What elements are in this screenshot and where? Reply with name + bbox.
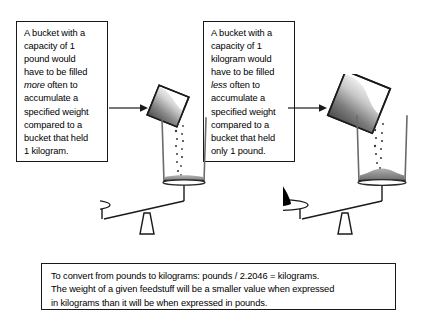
conversion-note-box: To convert from pounds to kilograms: pou… xyxy=(41,263,396,310)
illustration-kilogram-balance xyxy=(283,74,423,240)
callout-left-text-after: often to accumulate a specified weight c… xyxy=(24,80,89,155)
conversion-note-line1: To convert from pounds to kilograms: pou… xyxy=(51,271,319,281)
conversion-note-line2: The weight of a given feedstuff will be … xyxy=(51,284,334,294)
fulcrum-left xyxy=(140,213,154,234)
arrow-right-callout-to-scoop xyxy=(288,104,327,112)
balance-pan-left xyxy=(100,200,110,211)
bucket-left xyxy=(162,118,206,185)
illustration-pound-balance xyxy=(100,82,220,240)
callout-left-emphasis: more xyxy=(24,80,45,90)
callout-right-text-after: often to accumulate a specified weight c… xyxy=(211,80,276,155)
weight-cone-icon xyxy=(283,173,291,206)
conversion-note-line3: in kilograms than it will be when expres… xyxy=(51,298,267,308)
callout-pound-bucket: A bucket with a capacity of 1 pound woul… xyxy=(16,21,108,162)
figure-canvas: A bucket with a capacity of 1 pound woul… xyxy=(0,0,426,323)
callout-left-text-before: A bucket with a capacity of 1 pound woul… xyxy=(24,28,87,77)
scoop-large-icon xyxy=(328,74,390,133)
particle-stream-icon xyxy=(175,123,184,180)
scoop-small-icon xyxy=(147,85,189,127)
arrow-left-callout-to-scoop xyxy=(109,104,148,112)
fulcrum-right xyxy=(338,213,352,234)
callout-right-text-before: A bucket with a capacity of 1 kilogram w… xyxy=(211,28,274,77)
